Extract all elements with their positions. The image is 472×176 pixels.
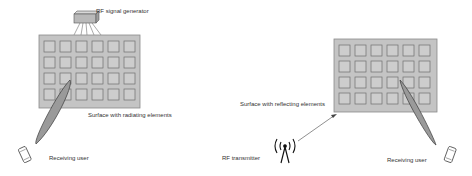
- surface-element: [108, 41, 119, 52]
- surface-element: [92, 89, 103, 100]
- surface-element: [371, 61, 382, 72]
- surface-element: [124, 73, 135, 84]
- radiating-surface-label: Surface with radiating elements: [88, 112, 172, 118]
- surface-element: [124, 41, 135, 52]
- surface-element: [339, 45, 350, 56]
- surface-element: [76, 57, 87, 68]
- surface-element: [44, 41, 55, 52]
- surface-element: [339, 77, 350, 88]
- rf-signal-generator-label: RF signal generator: [96, 8, 149, 14]
- surface-element: [355, 61, 366, 72]
- feed-lines: [74, 23, 101, 35]
- surface-element: [339, 93, 350, 104]
- surface-element: [92, 57, 103, 68]
- radiating-surface: [39, 35, 140, 108]
- left-receiving-user-label: Receiving user: [49, 155, 89, 161]
- surface-element: [387, 61, 398, 72]
- surface-element: [419, 61, 430, 72]
- surface-element: [92, 41, 103, 52]
- diagram-canvas: [0, 0, 472, 176]
- surface-element: [403, 45, 414, 56]
- surface-element: [371, 93, 382, 104]
- surface-element: [76, 89, 87, 100]
- surface-element: [403, 61, 414, 72]
- left-phone-icon: [18, 146, 32, 163]
- surface-element: [92, 73, 103, 84]
- surface-element: [124, 89, 135, 100]
- surface-element: [419, 45, 430, 56]
- surface-element: [124, 57, 135, 68]
- right-receiving-user-label: Receiving user: [387, 157, 427, 163]
- incident-arrow: [298, 114, 337, 141]
- surface-element: [419, 93, 430, 104]
- surface-element: [355, 77, 366, 88]
- surface-element: [387, 93, 398, 104]
- surface-element: [44, 73, 55, 84]
- surface-element: [44, 89, 55, 100]
- surface-element: [387, 77, 398, 88]
- rf-transmitter-icon: [275, 139, 295, 163]
- surface-element: [387, 45, 398, 56]
- right-phone-icon: [444, 146, 457, 163]
- surface-element: [76, 41, 87, 52]
- surface-element: [355, 45, 366, 56]
- surface-element: [339, 61, 350, 72]
- surface-element: [108, 73, 119, 84]
- surface-element: [60, 41, 71, 52]
- surface-element: [44, 57, 55, 68]
- surface-element: [355, 93, 366, 104]
- surface-element: [108, 57, 119, 68]
- surface-element: [419, 77, 430, 88]
- rf-transmitter-label: RF transmitter: [222, 155, 260, 161]
- reflecting-surface: [334, 39, 437, 112]
- surface-element: [60, 57, 71, 68]
- surface-element: [108, 89, 119, 100]
- surface-element: [371, 45, 382, 56]
- surface-element: [76, 73, 87, 84]
- reflecting-surface-label: Surface with reflecting elements: [240, 101, 325, 107]
- surface-element: [371, 77, 382, 88]
